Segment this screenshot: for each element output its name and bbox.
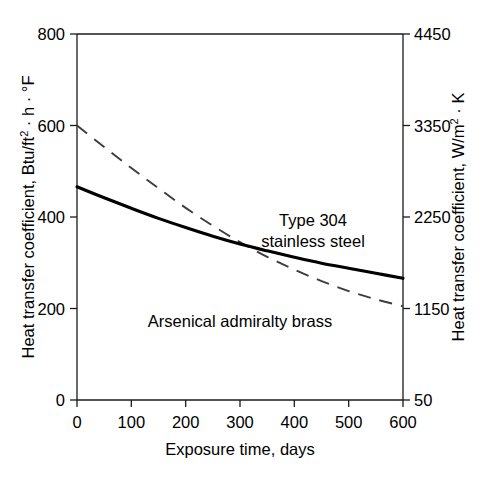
annotation-steel-line2: stainless steel — [261, 232, 365, 250]
right-tick-labels: 50 1150 2250 3350 4450 — [414, 25, 451, 409]
chart-figure: 0 200 400 600 800 50 1150 2250 3350 4450… — [0, 0, 491, 482]
annotation-type-304-stainless-steel: Type 304 stainless steel — [261, 211, 365, 250]
bottom-tick-label-400: 400 — [281, 413, 309, 431]
left-axis-title-tail: · h · °F — [19, 76, 37, 131]
plot-frame — [77, 34, 403, 400]
left-axis-ticks — [70, 34, 77, 400]
left-tick-label-200: 200 — [37, 300, 65, 318]
series-arsenical-admiralty-brass-line — [77, 126, 403, 307]
bottom-tick-label-100: 100 — [118, 413, 146, 431]
right-axis-title: Heat transfer coefficient, W/m2 · K — [448, 93, 467, 342]
right-axis-title-main: Heat transfer coefficient, W/m — [449, 124, 467, 341]
left-tick-label-800: 800 — [37, 25, 65, 43]
bottom-tick-label-0: 0 — [72, 413, 81, 431]
bottom-tick-label-300: 300 — [226, 413, 254, 431]
right-tick-label-1150: 1150 — [414, 300, 449, 318]
right-axis-title-tail: · K — [449, 93, 467, 119]
right-tick-label-2250: 2250 — [414, 208, 451, 226]
annotation-steel-line1: Type 304 — [279, 211, 347, 229]
left-tick-label-0: 0 — [56, 391, 65, 409]
right-tick-label-50: 50 — [414, 391, 432, 409]
heat-transfer-coefficient-line-chart: 0 200 400 600 800 50 1150 2250 3350 4450… — [0, 0, 491, 482]
right-axis-ticks — [403, 34, 410, 400]
right-tick-label-4450: 4450 — [414, 25, 451, 43]
annotation-arsenical-admiralty-brass: Arsenical admiralty brass — [148, 312, 332, 330]
left-axis-title-main: Heat transfer coefficient, Btu/ft — [19, 136, 37, 358]
left-tick-label-600: 600 — [37, 117, 65, 135]
left-axis-title: Heat transfer coefficient, Btu/ft2 · h ·… — [18, 76, 37, 359]
left-tick-label-400: 400 — [37, 208, 65, 226]
bottom-tick-labels: 0 100 200 300 400 500 600 — [72, 413, 416, 431]
bottom-tick-label-500: 500 — [335, 413, 363, 431]
right-tick-label-3350: 3350 — [414, 117, 451, 135]
bottom-tick-label-600: 600 — [389, 413, 417, 431]
left-tick-labels: 0 200 400 600 800 — [37, 25, 65, 409]
bottom-axis-ticks — [77, 400, 403, 407]
bottom-tick-label-200: 200 — [172, 413, 200, 431]
bottom-axis-title: Exposure time, days — [165, 440, 314, 458]
